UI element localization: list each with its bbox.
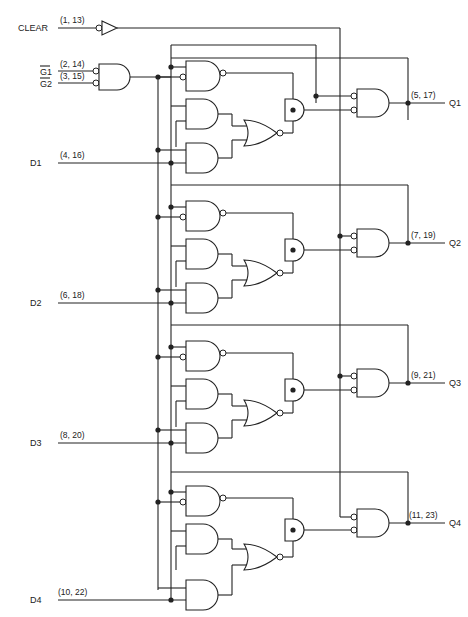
enable-and-gate-icon (99, 64, 130, 90)
and-gate-icon (186, 580, 218, 610)
and-gate-icon (186, 524, 218, 554)
and-gate-icon (186, 423, 218, 453)
latch-stage-4: (11, 23) Q4 D4 (10, 22) (30, 472, 461, 610)
q-pins: (9, 21) (411, 370, 436, 380)
d-label: D4 (30, 595, 42, 605)
output-and-gate-icon (357, 229, 389, 257)
nor-gate-icon (244, 400, 277, 426)
nand-gate-icon (186, 61, 220, 91)
g2-pins: (3, 15) (60, 71, 85, 81)
q-label: Q1 (449, 98, 461, 108)
output-and-gate-icon (357, 369, 389, 397)
d-label: D1 (30, 158, 42, 168)
q-pins: (5, 17) (411, 90, 436, 100)
nor-gate-icon (244, 120, 277, 146)
clear-input: CLEAR (1, 13) (18, 15, 340, 517)
and-gate-icon (186, 283, 218, 313)
and-gate-icon (186, 143, 218, 173)
latch-stage-3: (9, 21) Q3 D3 (8, 20) (30, 325, 461, 453)
q-label: Q3 (449, 378, 461, 388)
nor-gate-icon (244, 260, 277, 286)
clear-label: CLEAR (18, 23, 49, 33)
nand-gate-icon (186, 201, 220, 231)
q-pins: (7, 19) (411, 230, 436, 240)
g1-pins: (2, 14) (60, 59, 85, 69)
and-gate-icon (186, 239, 218, 269)
nor-gate-icon (244, 544, 277, 570)
d-label: D2 (30, 298, 42, 308)
nand-gate-icon (186, 486, 220, 516)
output-and-gate-icon (357, 89, 389, 117)
and-gate-icon (186, 99, 218, 129)
logic-diagram: CLEAR (1, 13) G1 (2, 14) G2 (3, 15) (0, 0, 468, 617)
latch-stage-2: (7, 19) Q2 D2 (6, 18) (30, 185, 461, 313)
q-label: Q4 (449, 518, 461, 528)
clear-pins: (1, 13) (60, 15, 85, 25)
d-pins: (10, 22) (58, 587, 87, 597)
and-gate-icon (186, 379, 218, 409)
d-label: D3 (30, 438, 42, 448)
d-pins: (8, 20) (60, 430, 85, 440)
gate-enable-inputs: G1 (2, 14) G2 (3, 15) (40, 59, 171, 90)
nand-gate-icon (186, 341, 220, 371)
buffer-gate-icon (102, 21, 117, 35)
q-pins: (11, 23) (409, 510, 438, 520)
inversion-bubble-icon (96, 25, 102, 31)
d-pins: (6, 18) (60, 290, 85, 300)
g1-label: G1 (40, 67, 52, 77)
q-label: Q2 (449, 238, 461, 248)
g2-label: G2 (40, 79, 52, 89)
output-and-gate-icon (357, 509, 389, 537)
latch-stage-1: (5, 17) Q1 D1 (4, 16) (30, 45, 461, 173)
d-pins: (4, 16) (60, 150, 85, 160)
